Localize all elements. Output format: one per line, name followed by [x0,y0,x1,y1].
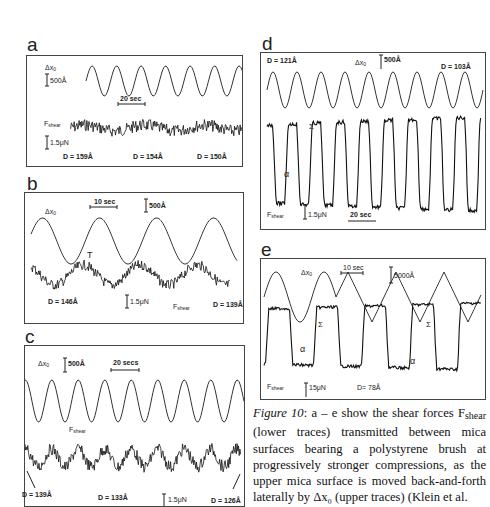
panel-c: Δx0 500Å 20 secs Fshear D = 139Å D = 133… [24,345,245,507]
panel-a-time-scale: 20 sec [120,95,141,102]
panel-c-force-scale: 1.5μN [168,496,187,503]
panel-b-d-label-2: D = 139Å [213,301,243,308]
panel-a-dx-label: Δx0 [45,64,56,72]
panel-b-force-scale: 1.5μN [130,298,149,305]
caption-text-2: (lower traces) transmitted between mica … [253,425,486,504]
panel-c-d-label-3: D = 126Å [211,497,241,504]
panel-a-letter: a [27,35,38,54]
panel-c-traces [25,346,244,506]
panel-e-force-label: Fshear [267,383,284,391]
panel-c-dx-label: Δx0 [38,360,49,368]
panel-c-d-label-2: D = 133Å [98,494,128,501]
panel-e-d-label: D= 78Å [357,384,381,391]
panel-d-traces [261,53,485,229]
panel-c-force-label: Fshear [69,426,86,434]
panel-a-d-label-1: D = 159Å [63,153,93,160]
panel-a-traces [27,56,242,166]
panel-c-time-scale: 20 secs [113,359,138,366]
panel-e: Δx0 10 sec 5000Å Σ Σ α α Fshear 15μN D= … [260,258,486,400]
panel-a-d-label-3: D = 150Å [197,153,227,160]
figure-caption: Figure 10: a – e show the shear forces F… [253,405,486,506]
panel-d-dx-scale: 500Å [384,56,401,63]
panel-d: D = 121Å Δx0 500Å D = 103Å Σ α Fshear 1.… [260,52,486,230]
panel-d-force-scale: 1.5μN [308,211,327,218]
panel-d-d-label-1: D = 121Å [267,57,297,64]
panel-a-d-label-2: D = 154Å [133,153,163,160]
panel-e-marker-sigma-1: Σ [318,321,323,329]
panel-c-dx-scale: 500Å [68,360,85,367]
panel-e-force-scale: 15μN [309,384,326,391]
panel-d-dx-label: Δx0 [355,59,366,67]
figure-number: Figure 10 [253,406,304,420]
panel-e-time-scale: 10 sec [343,264,364,271]
panel-c-d-label-1: D = 139Å [22,491,52,498]
panel-e-dx-scale: 5000Å [394,272,414,279]
panel-b-letter: b [27,174,38,193]
caption-subscript: shear [465,410,486,421]
panel-b: Δx0 10 sec 500Å T D = 146Å 1.5μN Fshear … [24,192,244,324]
caption-text-1: : a – e show the shear forces F [304,406,465,420]
panel-d-time-scale: 20 sec [350,211,371,218]
panel-a-force-scale: 1.5μN [50,139,69,146]
panel-b-d-label-1: D = 146Å [48,298,78,305]
panel-b-dx-scale: 500Å [149,202,166,209]
panel-d-marker-sigma: Σ [309,123,314,131]
panel-a: Δx0 500Å 20 sec Fshear 1.5μN D = 159Å D … [26,55,243,167]
panel-d-d-label-2: D = 103Å [441,63,471,70]
panel-d-force-label: Fshear [267,211,284,219]
panel-e-marker-alpha-1: α [300,345,305,354]
panel-b-time-scale: 10 sec [94,198,115,205]
panel-e-letter: e [261,240,272,259]
panel-d-marker-alpha: α [284,170,289,179]
panel-e-dx-label: Δx0 [301,269,312,277]
panel-a-dx-scale: 500Å [50,77,66,84]
panel-b-marker-t: T [87,251,93,260]
panel-e-marker-alpha-2: α [410,357,415,366]
panel-b-dx-label: Δx0 [45,208,56,216]
panel-d-letter: d [262,34,273,53]
panel-a-force-label: Fshear [44,120,61,128]
panel-b-force-label: Fshear [173,303,190,311]
panel-e-marker-sigma-2: Σ [426,321,431,329]
panel-c-letter: c [25,327,35,346]
panel-e-traces [261,259,485,399]
